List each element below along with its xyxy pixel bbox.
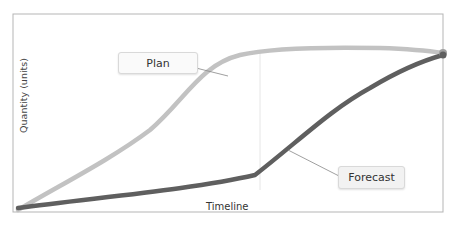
forecast-callout-connector	[288, 150, 339, 176]
chart-canvas	[0, 0, 455, 227]
forecast-label: Forecast	[348, 171, 395, 184]
x-axis-label: Timeline	[206, 201, 249, 212]
plan-callout: Plan	[118, 52, 198, 74]
y-axis-label: Quantity (units)	[18, 51, 29, 141]
forecast-callout: Forecast	[338, 166, 405, 189]
forecast-end-marker	[440, 52, 447, 59]
plan-label: Plan	[146, 57, 169, 70]
